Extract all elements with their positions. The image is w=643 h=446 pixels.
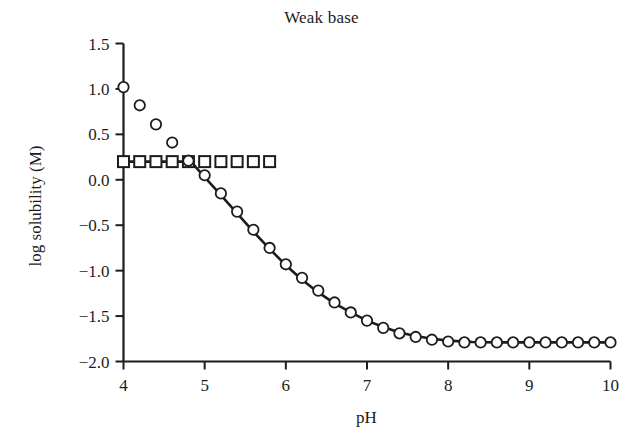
- data-point-square: [215, 156, 226, 167]
- data-point-square: [232, 156, 243, 167]
- data-point-circle: [508, 337, 518, 347]
- data-point-circle: [475, 337, 485, 347]
- data-point-circle: [167, 137, 177, 147]
- data-point-circle: [362, 315, 372, 325]
- y-axis-ticks: 1.51.00.50.0−0.5−1.0−1.5−2.0: [79, 35, 124, 372]
- data-point-circle: [411, 332, 421, 342]
- data-point-circle: [459, 337, 469, 347]
- data-point-circle: [329, 297, 339, 307]
- y-tick-label: −0.5: [79, 216, 110, 235]
- data-point-circle: [378, 323, 388, 333]
- data-point-circle: [492, 337, 502, 347]
- data-point-square: [199, 156, 210, 167]
- y-tick-label: 0.0: [88, 171, 109, 190]
- data-point-square: [167, 156, 178, 167]
- data-point-circle: [540, 337, 550, 347]
- data-point-circle: [297, 273, 307, 283]
- y-tick-label: −1.0: [79, 262, 110, 281]
- data-point-circle: [427, 334, 437, 344]
- x-tick-label: 9: [525, 376, 534, 395]
- data-point-circle: [589, 337, 599, 347]
- data-point-square: [134, 156, 145, 167]
- x-tick-label: 10: [602, 376, 619, 395]
- data-point-circle: [281, 259, 291, 269]
- x-tick-label: 7: [363, 376, 372, 395]
- data-point-circle: [135, 100, 145, 110]
- data-point-circle: [183, 156, 193, 166]
- y-tick-label: 0.5: [88, 125, 109, 144]
- data-point-circle: [573, 337, 583, 347]
- axis-lines: [124, 44, 611, 362]
- square-marker-series: [118, 156, 275, 167]
- circle-marker-series: [118, 82, 615, 348]
- data-point-circle: [605, 337, 615, 347]
- data-point-square: [118, 156, 129, 167]
- data-point-circle: [151, 119, 161, 129]
- data-point-circle: [313, 285, 323, 295]
- x-tick-label: 6: [282, 376, 291, 395]
- data-point-circle: [557, 337, 567, 347]
- data-point-square: [150, 156, 161, 167]
- data-point-circle: [264, 243, 274, 253]
- y-tick-label: 1.0: [88, 80, 109, 99]
- y-tick-label: −1.5: [79, 307, 110, 326]
- data-point-circle: [443, 336, 453, 346]
- data-point-circle: [232, 206, 242, 216]
- data-point-square: [248, 156, 259, 167]
- x-axis-ticks: 45678910: [119, 362, 619, 395]
- data-point-circle: [524, 337, 534, 347]
- y-tick-label: −2.0: [79, 353, 110, 372]
- data-point-circle: [199, 170, 209, 180]
- x-tick-label: 8: [444, 376, 453, 395]
- data-point-circle: [216, 188, 226, 198]
- plot-area: 45678910 1.51.00.50.0−0.5−1.0−1.5−2.0: [0, 0, 643, 446]
- x-tick-label: 5: [200, 376, 209, 395]
- data-point-circle: [346, 307, 356, 317]
- x-tick-label: 4: [119, 376, 128, 395]
- chart-figure: Weak base log solubility (M) pH 45678910…: [0, 0, 643, 446]
- data-point-circle: [248, 225, 258, 235]
- data-point-circle: [394, 328, 404, 338]
- data-point-circle: [118, 82, 128, 92]
- data-point-square: [264, 156, 275, 167]
- y-tick-label: 1.5: [88, 35, 109, 54]
